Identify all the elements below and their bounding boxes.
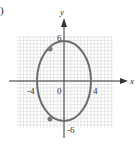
data-point: [48, 117, 53, 122]
y-axis-label: y: [59, 7, 64, 17]
x-axis-label: x: [129, 76, 134, 86]
y-tick-label: -6: [67, 125, 75, 135]
x-tick-label: 4: [93, 86, 98, 96]
y-tick-label: 6: [57, 33, 62, 43]
y-axis-arrow-icon: [61, 18, 67, 27]
data-point: [48, 47, 53, 52]
grid: [17, 36, 113, 128]
ellipse-graph: ) x y -4 0 4 6 -6: [0, 0, 139, 146]
x-tick-label: -4: [27, 86, 35, 96]
panel-label: ): [0, 4, 4, 17]
x-axis-arrow-icon: [120, 78, 128, 84]
x-tick-label: 0: [57, 86, 62, 96]
